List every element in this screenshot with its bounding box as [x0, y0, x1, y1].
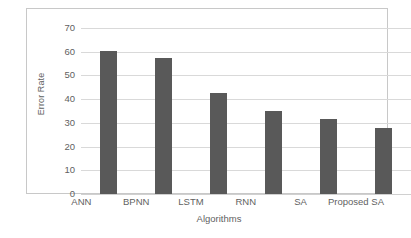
y-tick-label: 50: [64, 71, 75, 81]
plot-area: 010203040506070: [81, 28, 411, 194]
x-tick-label-proposed-sa: Proposed SA: [328, 196, 384, 207]
y-tick-label: 60: [64, 47, 75, 57]
bar-sa[interactable]: [320, 119, 337, 194]
x-tick-label-ann: ANN: [54, 196, 109, 207]
x-axis-ticks: ANNBPNNLSTMRNNSAProposed SA: [54, 196, 384, 207]
y-tick-label: 40: [64, 94, 75, 104]
y-tick-label: 20: [64, 142, 75, 152]
bar-ann[interactable]: [100, 51, 117, 194]
x-tick-label-rnn: RNN: [218, 196, 273, 207]
x-axis-title: Algorithms: [54, 213, 384, 224]
bar-slot: [81, 28, 136, 194]
bar-slot: [301, 28, 356, 194]
y-tick-label: 10: [64, 166, 75, 176]
x-tick-label-sa: SA: [273, 196, 328, 207]
bar-proposed-sa[interactable]: [375, 128, 392, 194]
y-axis-title: Error Rate: [36, 24, 46, 164]
x-tick-label-bpnn: BPNN: [109, 196, 164, 207]
bar-slot: [246, 28, 301, 194]
bar-slot: [191, 28, 246, 194]
bar-slot: [136, 28, 191, 194]
bar-lstm[interactable]: [210, 93, 227, 194]
gridline: [81, 194, 411, 195]
bar-rnn[interactable]: [265, 111, 282, 194]
y-tick-label: 30: [64, 118, 75, 128]
bar-slot: [356, 28, 411, 194]
plot-frame: Error Rate 010203040506070: [26, 8, 388, 194]
x-tick-label-lstm: LSTM: [164, 196, 219, 207]
bar-series: [81, 28, 411, 194]
y-tick-label: 70: [64, 23, 75, 33]
bar-bpnn[interactable]: [155, 58, 172, 194]
